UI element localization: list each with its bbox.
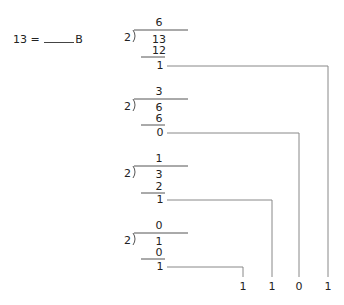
subtrahend: 2 (149, 181, 169, 193)
quotient: 6 (149, 17, 169, 29)
result-bit: 1 (262, 281, 282, 293)
quotient: 0 (149, 220, 169, 232)
subtrahend: 6 (149, 113, 169, 125)
subtrahend: 0 (149, 247, 169, 259)
remainder: 1 (150, 194, 170, 206)
divisor: 2 (124, 235, 131, 247)
result-bit: 1 (318, 281, 338, 293)
quotient: 1 (149, 153, 169, 165)
result-bit: 0 (289, 281, 309, 293)
subtrahend: 12 (149, 45, 169, 57)
connector-lines (0, 0, 344, 305)
divisor: 2 (124, 32, 131, 44)
result-bit: 1 (233, 281, 253, 293)
divisor: 2 (124, 168, 131, 180)
divisor: 2 (124, 101, 131, 113)
quotient: 3 (149, 86, 169, 98)
remainder: 1 (150, 261, 170, 273)
remainder: 0 (150, 127, 170, 139)
remainder: 1 (150, 60, 170, 72)
